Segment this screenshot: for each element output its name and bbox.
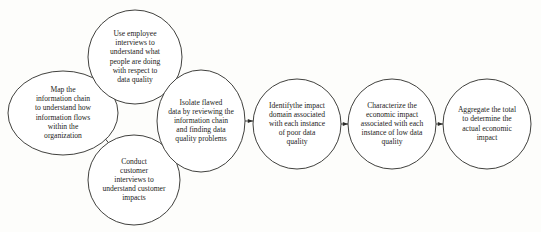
node-label-line: understand customer bbox=[102, 184, 166, 193]
node-label-line: to understand how bbox=[35, 103, 92, 112]
node-label-line: to determine the bbox=[462, 114, 512, 123]
diagram-node-identify-impact-domain[interactable]: Identifythe impactdomain associatedwith … bbox=[253, 79, 341, 169]
connector-arrow bbox=[341, 122, 348, 126]
node-label-line: actual economic bbox=[462, 123, 512, 132]
node-label-line: economic impact bbox=[366, 110, 419, 119]
node-label-line: quality bbox=[381, 137, 402, 146]
node-label-line: quality bbox=[286, 137, 307, 146]
nodes-layer: Map theinformation chainto understand ho… bbox=[8, 10, 531, 225]
node-label-line: data by reviewing the bbox=[168, 107, 234, 116]
node-label-line: information chain bbox=[174, 116, 228, 125]
connector-arrow bbox=[436, 122, 443, 126]
node-label-line: impact bbox=[477, 133, 499, 142]
node-label-line: Aggregate the total bbox=[458, 105, 516, 114]
diagram-node-isolate-flawed-data[interactable]: Isolate flaweddata by reviewing theinfor… bbox=[157, 70, 245, 172]
arrowhead-icon bbox=[248, 119, 253, 123]
node-label-line: information flows bbox=[36, 112, 91, 121]
node-label-line: people are doing bbox=[110, 56, 161, 65]
node-label-line: data quality bbox=[117, 75, 153, 84]
connector-arrow bbox=[245, 119, 253, 123]
node-label-line: Isolate flawed bbox=[180, 97, 223, 106]
node-label-line: instance of low data bbox=[362, 128, 424, 137]
node-label-line: of poor data bbox=[279, 128, 316, 137]
node-label-line: interviews to bbox=[114, 175, 154, 184]
node-label-line: Identifythe impact bbox=[269, 100, 326, 109]
flow-diagram: Map theinformation chainto understand ho… bbox=[0, 0, 541, 232]
node-label-line: quality problems bbox=[175, 134, 226, 143]
diagram-canvas: Map theinformation chainto understand ho… bbox=[0, 0, 541, 232]
diagram-node-aggregate-total[interactable]: Aggregate the totalto determine theactua… bbox=[443, 79, 531, 169]
node-label-line: domain associated bbox=[269, 110, 325, 119]
node-label-line: associated with each bbox=[361, 119, 424, 128]
node-label-line: Conduct bbox=[121, 156, 148, 165]
arrowhead-icon bbox=[343, 122, 348, 126]
node-label-line: and finding data bbox=[176, 125, 226, 134]
node-label-line: impacts bbox=[122, 193, 146, 202]
node-label-line: Characterize the bbox=[367, 100, 417, 109]
arrowhead-icon bbox=[438, 122, 443, 126]
node-label-line: interviews to bbox=[115, 38, 155, 47]
diagram-node-characterize-economic-impact[interactable]: Characterize theeconomic impactassociate… bbox=[348, 79, 436, 169]
node-label-line: within the bbox=[48, 122, 79, 131]
node-label-line: Map the bbox=[50, 85, 76, 94]
node-label-line: with respect to bbox=[113, 66, 158, 75]
node-label-line: organization bbox=[44, 131, 82, 140]
node-label-line: understand what bbox=[110, 47, 161, 56]
node-label-line: with each instance bbox=[269, 119, 326, 128]
node-label-line: Use employee bbox=[113, 29, 157, 38]
node-label-line: customer bbox=[120, 166, 148, 175]
node-label-line: information chain bbox=[36, 94, 90, 103]
